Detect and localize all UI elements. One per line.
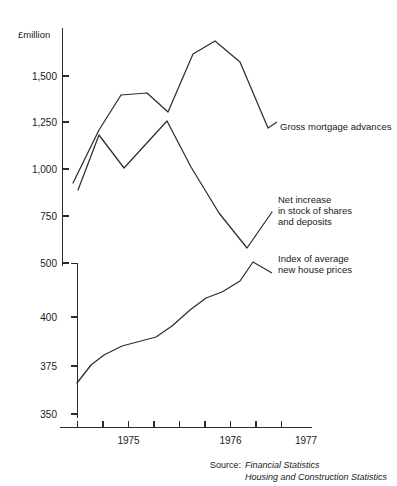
y-axis-primary: £million 1,500 1,250 1,000 750 500 — [18, 28, 69, 269]
series-line-net-increase — [78, 121, 272, 248]
y-tick-label-350: 350 — [40, 409, 57, 420]
x-tick-label-1975: 1975 — [117, 435, 140, 446]
leader-house-price-index — [253, 262, 272, 273]
series-gross-mortgage-advances: Gross mortgage advances — [73, 41, 392, 183]
series-label-net-increase-line1: Net increase — [278, 194, 331, 205]
x-tick-label-1976: 1976 — [219, 435, 242, 446]
source-note: Source: Financial Statistics Housing and… — [210, 460, 388, 482]
source-line-2: Housing and Construction Statistics — [245, 472, 388, 482]
series-line-house-price-index — [77, 262, 253, 383]
series-net-increase: Net increase in stock of shares and depo… — [78, 121, 352, 248]
y-tick-label-750: 750 — [40, 211, 57, 222]
y-axis-secondary: 400 375 350 — [40, 263, 77, 420]
y-tick-label-400: 400 — [40, 312, 57, 323]
series-line-gross-mortgage-advances — [73, 41, 268, 183]
y-tick-label-500-primary: 500 — [40, 258, 57, 269]
x-tick-label-1977: 1977 — [295, 435, 318, 446]
source-label: Source: — [210, 460, 241, 470]
series-label-gross-mortgage-advances: Gross mortgage advances — [280, 121, 392, 132]
y-tick-label-375: 375 — [40, 361, 57, 372]
leader-gross-mortgage-advances — [268, 122, 277, 128]
y-tick-label-1000: 1,000 — [32, 164, 57, 175]
series-label-net-increase-line3: and deposits — [278, 216, 332, 227]
chart-svg: £million 1,500 1,250 1,000 750 500 400 3… — [0, 0, 397, 486]
y-tick-label-1250: 1,250 — [32, 117, 57, 128]
source-line-1: Financial Statistics — [245, 460, 320, 470]
series-label-house-price-index-line1: Index of average — [278, 253, 349, 264]
series-label-house-price-index-line2: new house prices — [278, 264, 352, 275]
series-label-net-increase-line2: in stock of shares — [278, 205, 352, 216]
y-axis-unit-label: £million — [18, 29, 50, 40]
x-axis: 1975 1976 1977 — [60, 421, 318, 446]
series-house-price-index: Index of average new house prices — [77, 253, 352, 383]
chart-figure: £million 1,500 1,250 1,000 750 500 400 3… — [0, 0, 397, 486]
y-tick-label-1500: 1,500 — [32, 71, 57, 82]
